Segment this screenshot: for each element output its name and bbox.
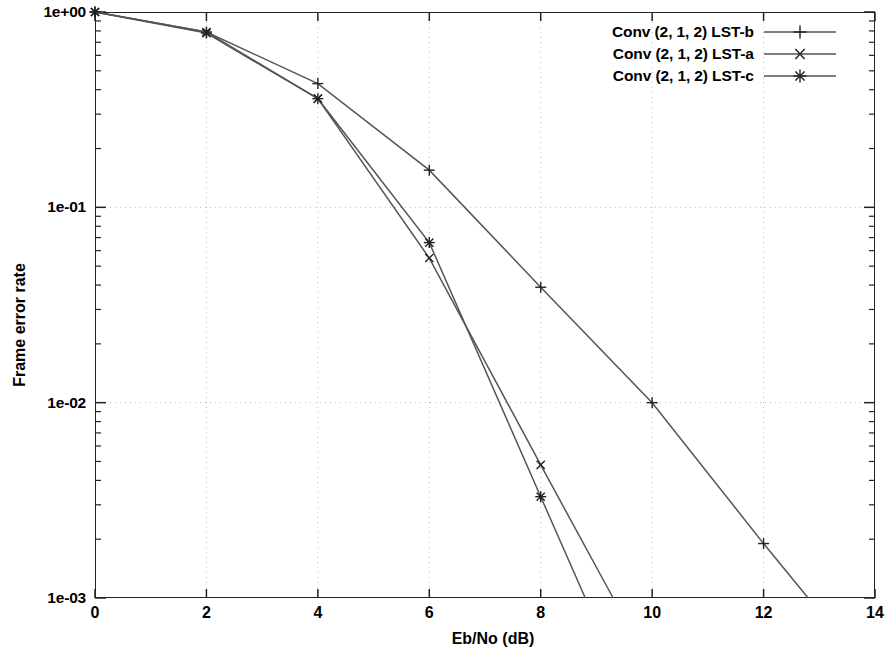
legend-key-cross-icon [762, 44, 838, 64]
x-tick-label: 8 [536, 604, 545, 622]
x-tick-label: 6 [425, 604, 434, 622]
x-axis-title: Eb/No (dB) [0, 630, 896, 648]
legend-key-asterisk-icon [762, 66, 838, 86]
x-tick-label: 2 [202, 604, 211, 622]
x-tick-label: 4 [313, 604, 322, 622]
y-axis-title: Frame error rate [6, 0, 34, 650]
x-tick-label: 14 [866, 604, 884, 622]
chart-root: 1e+001e-011e-021e-03 02468101214 Eb/No (… [0, 0, 896, 650]
legend-label: Conv (2, 1, 2) LST-c [613, 67, 754, 85]
legend-label: Conv (2, 1, 2) LST-a [613, 45, 754, 63]
legend-label: Conv (2, 1, 2) LST-b [612, 23, 754, 41]
x-tick-label: 10 [643, 604, 661, 622]
legend-item: Conv (2, 1, 2) LST-b [612, 22, 838, 42]
x-tick-label: 0 [91, 604, 100, 622]
legend-key-plus-icon [762, 22, 838, 42]
chart-legend: Conv (2, 1, 2) LST-b Conv (2, 1, 2) LST-… [612, 22, 838, 86]
plot-area [95, 12, 875, 598]
x-tick-label: 12 [755, 604, 773, 622]
legend-item: Conv (2, 1, 2) LST-c [612, 66, 838, 86]
legend-item: Conv (2, 1, 2) LST-a [612, 44, 838, 64]
